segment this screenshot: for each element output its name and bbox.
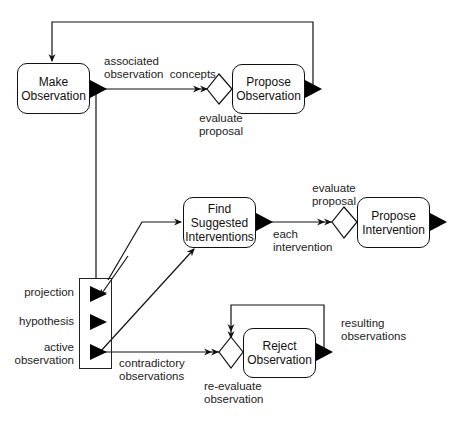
edge-projection-to-find xyxy=(100,222,181,296)
node-find-suggested-interventions[interactable]: Find Suggested Interventions xyxy=(183,197,256,248)
edge-label-associated-concepts: associated observation concepts xyxy=(104,55,216,81)
decision-label-evaluate-proposal-2: evaluate proposal xyxy=(309,182,359,208)
node-label: Propose xyxy=(236,75,301,89)
node-propose-intervention[interactable]: Propose Intervention xyxy=(357,197,430,248)
node-label: Find xyxy=(185,202,254,216)
decision-re-evaluate-observation xyxy=(219,337,243,368)
node-propose-observation[interactable]: Propose Observation xyxy=(232,64,305,114)
input-ports-group xyxy=(79,278,112,369)
output-port-find-interventions xyxy=(256,213,273,231)
node-make-observation[interactable]: Make Observation xyxy=(17,63,90,114)
decision-label-re-evaluate-observation: re-evaluate observation xyxy=(204,380,263,406)
node-label: Propose xyxy=(362,209,425,223)
node-label: Interventions xyxy=(185,230,254,244)
node-label: Intervention xyxy=(362,223,425,237)
edge-label-each-intervention: each intervention xyxy=(273,228,332,254)
node-label: Make xyxy=(21,75,86,89)
port-label-projection: projection xyxy=(10,286,74,299)
decision-evaluate-proposal-2 xyxy=(332,207,357,238)
edge-label-resulting-observations: resulting observations xyxy=(341,317,406,343)
node-label: Suggested xyxy=(185,216,254,230)
node-label: Reject xyxy=(247,339,312,353)
output-port-propose-intervention xyxy=(430,213,447,231)
edge-active-to-find xyxy=(100,249,194,352)
edge-label-contradictory: contradictory observations xyxy=(119,357,185,383)
port-label-active-observation: active observation xyxy=(6,341,74,367)
node-label: Observation xyxy=(236,89,301,103)
decision-label-evaluate-proposal-1: evaluate proposal xyxy=(193,112,249,138)
port-label-hypothesis: hypothesis xyxy=(10,315,74,328)
node-label: Observation xyxy=(21,89,86,103)
node-label: Observation xyxy=(247,353,312,367)
node-reject-observation[interactable]: Reject Observation xyxy=(243,328,316,378)
output-port-make-observation xyxy=(90,80,107,98)
